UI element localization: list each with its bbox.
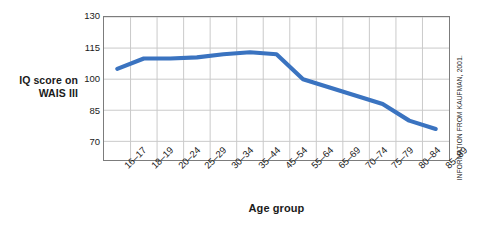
data-line-series bbox=[104, 17, 449, 160]
x-tick-label: 55–64 bbox=[309, 163, 317, 171]
chart-figure: IQ score on WAIS III 7085100115130 16–17… bbox=[0, 0, 483, 227]
y-axis-title-line-2: WAIS III bbox=[2, 87, 78, 100]
x-tick-label: 70–74 bbox=[363, 163, 371, 171]
x-tick-label: 35–44 bbox=[256, 163, 264, 171]
x-tick-label: 18–19 bbox=[149, 163, 157, 171]
x-tick-label: 16–17 bbox=[122, 163, 130, 171]
x-tick-label: 45–54 bbox=[283, 163, 291, 171]
x-tick-label: 30–34 bbox=[229, 163, 237, 171]
y-tick-label: 70 bbox=[74, 137, 100, 147]
x-tick-label: 65–69 bbox=[336, 163, 344, 171]
y-axis-title-line-1: IQ score on bbox=[2, 74, 78, 87]
x-axis-tick-labels: 16–1718–1920–2425–2930–3435–4445–5455–64… bbox=[103, 161, 450, 205]
x-tick-label: 80–84 bbox=[416, 163, 424, 171]
plot-area bbox=[103, 16, 450, 161]
y-tick-label: 100 bbox=[74, 74, 100, 84]
x-tick-label: 85–89 bbox=[443, 163, 451, 171]
y-axis-tick-labels: 7085100115130 bbox=[72, 0, 100, 227]
source-credit-label: INFORMATION FROM KAUFMAN, 2001. bbox=[456, 55, 463, 180]
x-tick-label: 75–79 bbox=[389, 163, 397, 171]
x-tick-label: 20–24 bbox=[176, 163, 184, 171]
y-tick-label: 115 bbox=[74, 43, 100, 53]
x-tick-label: 25–29 bbox=[202, 163, 210, 171]
y-tick-label: 85 bbox=[74, 106, 100, 116]
y-tick-label: 130 bbox=[74, 11, 100, 21]
x-axis-title: Age group bbox=[103, 202, 450, 214]
y-axis-title: IQ score on WAIS III bbox=[2, 74, 78, 99]
